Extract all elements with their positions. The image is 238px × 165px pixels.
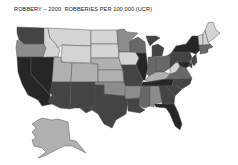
state-WA[interactable] <box>17 27 44 44</box>
state-NM[interactable] <box>70 82 95 109</box>
state-SD[interactable] <box>91 44 119 58</box>
state-MS[interactable] <box>139 86 150 108</box>
state-MI[interactable] <box>146 36 164 57</box>
state-KS[interactable] <box>98 70 124 82</box>
state-CO[interactable] <box>71 63 98 82</box>
state-OH[interactable] <box>156 54 170 72</box>
state-WY[interactable] <box>61 45 91 63</box>
state-ME[interactable] <box>205 22 220 42</box>
state-FL[interactable] <box>154 104 182 130</box>
state-RI[interactable] <box>206 49 208 53</box>
state-ND[interactable] <box>91 30 118 44</box>
state-VT[interactable] <box>198 34 203 45</box>
us-choropleth-map <box>0 0 238 165</box>
state-NY[interactable] <box>172 36 200 54</box>
state-WI[interactable] <box>130 37 146 53</box>
state-AR[interactable] <box>125 86 141 99</box>
state-IA[interactable] <box>119 52 139 65</box>
states <box>16 22 220 158</box>
state-AZ[interactable] <box>48 82 71 109</box>
state-AK[interactable] <box>32 118 86 158</box>
